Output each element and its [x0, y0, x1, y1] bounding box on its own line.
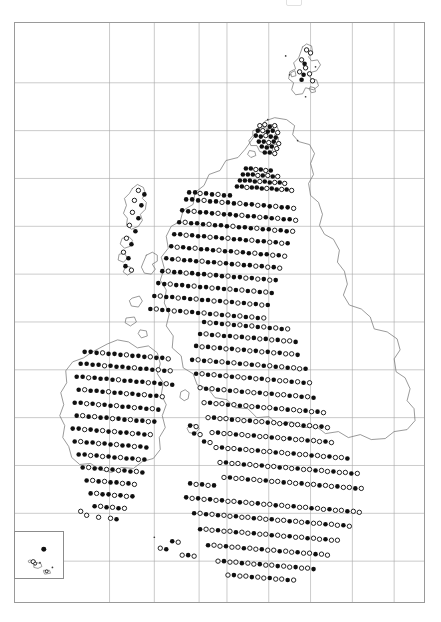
record-symbol-open	[124, 353, 128, 357]
record-symbol-open	[198, 191, 202, 195]
record-symbol-open	[202, 311, 206, 315]
record-symbol-filled	[213, 223, 218, 228]
record-symbol-open	[252, 562, 256, 566]
record-symbol-filled	[327, 507, 332, 512]
record-symbol-filled	[136, 354, 141, 359]
record-symbol-filled	[98, 466, 103, 471]
record-symbol-open	[198, 432, 202, 436]
record-symbol-open	[293, 519, 297, 523]
record-symbol-open	[283, 549, 287, 553]
record-symbol-filled	[196, 234, 201, 239]
record-symbol-open	[100, 351, 104, 355]
record-symbol-filled	[229, 249, 234, 254]
record-symbol-filled	[240, 389, 245, 394]
record-symbol-filled	[256, 128, 261, 133]
record-symbol-filled	[160, 269, 165, 274]
distribution-map[interactable]	[15, 23, 424, 602]
record-symbol-open	[218, 544, 222, 548]
record-symbol-filled	[142, 192, 147, 197]
record-symbol-open	[208, 440, 212, 444]
record-symbol-filled	[126, 443, 131, 448]
record-symbol-open	[128, 417, 132, 421]
record-symbol-filled	[273, 278, 278, 283]
record-symbol-filled	[232, 314, 237, 319]
record-symbol-filled	[269, 291, 274, 296]
record-symbol-open	[220, 360, 224, 364]
record-symbol-open	[357, 510, 361, 514]
record-symbol-open	[266, 464, 270, 468]
record-symbol-open	[132, 444, 136, 448]
coastline-isle-of-man	[180, 390, 189, 401]
record-symbol-filled	[267, 124, 272, 129]
record-symbol-filled	[198, 285, 203, 290]
record-symbol-open	[264, 168, 268, 172]
record-symbol-filled	[88, 491, 93, 496]
record-symbol-filled	[150, 368, 155, 373]
record-symbol-filled	[78, 362, 83, 367]
record-symbol-open	[266, 548, 270, 552]
record-symbol-open	[272, 351, 276, 355]
record-symbol-open	[236, 301, 240, 305]
record-symbol-open	[252, 391, 256, 395]
record-symbol-open	[194, 424, 198, 428]
record-symbol-filled	[243, 225, 248, 230]
record-symbol-open	[158, 546, 162, 550]
record-symbol-open	[244, 574, 248, 578]
channel-islands-inset[interactable]	[14, 531, 64, 579]
record-symbol-filled	[281, 480, 286, 485]
record-symbol-filled	[206, 345, 211, 350]
record-symbol-filled	[267, 326, 272, 331]
record-symbol-open	[270, 479, 274, 483]
record-symbol-filled	[212, 260, 217, 265]
record-symbol-open	[301, 467, 305, 471]
record-symbol-filled	[130, 456, 135, 461]
record-symbol-filled	[278, 228, 283, 233]
record-symbol-open	[217, 248, 221, 252]
record-symbol-filled	[244, 324, 249, 329]
record-symbol-filled	[265, 303, 270, 308]
record-symbol-open	[291, 578, 295, 582]
record-symbol-open	[325, 425, 329, 429]
record-symbol-open	[258, 337, 262, 341]
record-symbol-open	[307, 381, 311, 385]
coastline-layer	[60, 44, 415, 473]
record-symbol-filled	[120, 404, 125, 409]
record-symbol-open	[273, 180, 277, 184]
record-symbol-filled	[206, 543, 211, 548]
record-symbol-filled	[214, 360, 219, 365]
record-symbol-open	[114, 442, 118, 446]
record-symbol-filled	[244, 238, 249, 243]
record-symbol-open	[321, 454, 325, 458]
record-symbol-open	[216, 559, 220, 563]
record-symbol-open	[230, 461, 234, 465]
record-symbol-filled	[241, 250, 246, 255]
coastline-ireland	[60, 340, 166, 473]
record-symbol-open	[297, 505, 301, 509]
record-symbol-filled	[247, 251, 252, 256]
record-symbol-open	[228, 560, 232, 564]
inset-record-symbol-open	[45, 570, 48, 573]
record-symbol-open	[232, 402, 236, 406]
record-symbol-open	[303, 452, 307, 456]
record-symbol-open	[252, 289, 256, 293]
record-symbol-open	[280, 450, 284, 454]
record-symbol-filled	[126, 366, 131, 371]
record-symbol-open	[245, 185, 249, 189]
record-symbol-filled	[130, 391, 135, 396]
inset-record-symbol-filled	[41, 547, 46, 552]
record-symbol-filled	[299, 78, 304, 83]
record-symbol-open	[184, 271, 188, 275]
record-symbol-filled	[190, 358, 195, 363]
record-symbol-filled	[142, 432, 147, 437]
record-symbol-filled	[140, 418, 145, 423]
record-symbol-open	[196, 358, 200, 362]
record-symbol-filled	[256, 501, 261, 506]
record-symbol-filled	[210, 333, 215, 338]
record-symbol-open	[260, 419, 264, 423]
record-symbol-filled	[188, 481, 193, 486]
record-symbol-filled	[104, 505, 109, 510]
record-symbol-filled	[250, 575, 255, 580]
record-symbol-open	[268, 502, 272, 506]
record-symbol-open	[281, 436, 285, 440]
record-symbol-filled	[102, 441, 107, 446]
